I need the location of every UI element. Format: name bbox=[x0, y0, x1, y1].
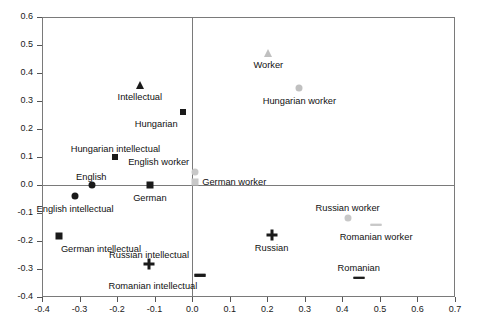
data-point-label: English bbox=[76, 172, 107, 183]
y-axis-tick-label: 0.2 bbox=[3, 123, 33, 133]
y-axis-tick-label: 0.4 bbox=[3, 67, 33, 77]
y-axis-tick bbox=[37, 241, 42, 242]
data-point-label: Hungarian worker bbox=[263, 96, 336, 107]
x-axis-tick bbox=[117, 297, 118, 302]
data-point-label: German bbox=[133, 193, 167, 204]
data-point-label: Romanian bbox=[338, 263, 380, 274]
y-axis-tick-label: -0.3 bbox=[3, 263, 33, 273]
y-axis-tick-label: 0.5 bbox=[3, 39, 33, 49]
data-point-label: Hungarian bbox=[135, 119, 178, 130]
circle-marker-icon bbox=[296, 84, 303, 91]
x-axis-tick bbox=[305, 297, 306, 302]
data-point-label: Worker bbox=[253, 60, 283, 71]
x-axis-tick-label: 0.1 bbox=[210, 304, 250, 314]
y-axis-tick-label: -0.1 bbox=[3, 207, 33, 217]
x-axis-tick bbox=[417, 297, 418, 302]
data-point-label: Russian intellectual bbox=[109, 250, 189, 261]
triangle-marker-icon bbox=[136, 81, 144, 89]
y-axis-tick bbox=[37, 45, 42, 46]
y-axis-tick bbox=[37, 297, 42, 298]
y-axis-tick bbox=[37, 17, 42, 18]
x-axis-tick bbox=[230, 297, 231, 302]
y-axis-tick-label: 0.6 bbox=[3, 11, 33, 21]
y-axis-tick-label: 0.1 bbox=[3, 151, 33, 161]
x-axis-tick bbox=[267, 297, 268, 302]
x-axis-tick-label: 0.2 bbox=[247, 304, 287, 314]
x-axis-tick bbox=[42, 297, 43, 302]
x-axis-tick bbox=[380, 297, 381, 302]
data-point-label: Romanian intellectual bbox=[108, 281, 197, 292]
x-axis-tick bbox=[455, 297, 456, 302]
circle-marker-icon bbox=[192, 168, 199, 175]
data-point-label: English worker bbox=[128, 157, 189, 168]
diamond-marker-icon bbox=[180, 109, 186, 115]
y-axis-tick bbox=[37, 185, 42, 186]
x-axis-tick bbox=[80, 297, 81, 302]
data-point-label: English intellectual bbox=[37, 204, 114, 215]
circle-marker-icon bbox=[72, 193, 79, 200]
y-axis-tick-label: -0.2 bbox=[3, 235, 33, 245]
square-marker-icon bbox=[192, 178, 199, 185]
cross-marker-icon bbox=[353, 277, 364, 279]
x-axis-tick bbox=[342, 297, 343, 302]
x-axis-tick-label: -0.4 bbox=[22, 304, 62, 314]
y-axis-tick bbox=[37, 73, 42, 74]
square-marker-icon bbox=[147, 182, 154, 189]
y-axis-tick bbox=[37, 101, 42, 102]
y-axis-tick bbox=[37, 129, 42, 130]
cross-marker-icon bbox=[195, 274, 206, 276]
y-axis-tick-label: 0.3 bbox=[3, 95, 33, 105]
plus-marker-icon bbox=[270, 229, 273, 240]
data-point-label: Russian worker bbox=[316, 203, 380, 214]
y-axis-tick bbox=[37, 157, 42, 158]
y-axis-tick-label: 0.0 bbox=[3, 179, 33, 189]
x-axis-tick-label: -0.3 bbox=[60, 304, 100, 314]
x-axis-tick-label: 0.0 bbox=[172, 304, 212, 314]
x-axis-tick-label: 0.4 bbox=[322, 304, 362, 314]
data-point-label: Russian bbox=[255, 243, 289, 254]
data-point-label: Intellectual bbox=[118, 92, 162, 103]
square-marker-icon bbox=[55, 232, 62, 239]
x-axis-tick-label: -0.2 bbox=[97, 304, 137, 314]
triangle-marker-icon bbox=[264, 49, 272, 57]
vertical-zero-axis-line bbox=[192, 17, 193, 297]
plot-area-frame bbox=[42, 17, 455, 297]
y-axis-tick bbox=[37, 269, 42, 270]
x-axis-tick-label: -0.1 bbox=[135, 304, 175, 314]
data-point-label: Hungarian intellectual bbox=[71, 144, 160, 155]
x-axis-tick-label: 0.5 bbox=[360, 304, 400, 314]
x-axis-tick-label: 0.3 bbox=[285, 304, 325, 314]
x-axis-tick bbox=[192, 297, 193, 302]
scatter-plot: -0.4-0.3-0.2-0.10.00.10.20.30.40.50.60.7… bbox=[0, 0, 477, 331]
circle-marker-icon bbox=[344, 215, 351, 222]
x-axis-tick-label: 0.6 bbox=[397, 304, 437, 314]
y-axis-tick-label: -0.4 bbox=[3, 291, 33, 301]
data-point-label: German worker bbox=[202, 177, 266, 188]
data-point-label: Romanian worker bbox=[340, 232, 413, 243]
x-axis-tick-label: 0.7 bbox=[435, 304, 475, 314]
cross-marker-icon bbox=[371, 224, 382, 226]
x-axis-tick bbox=[155, 297, 156, 302]
